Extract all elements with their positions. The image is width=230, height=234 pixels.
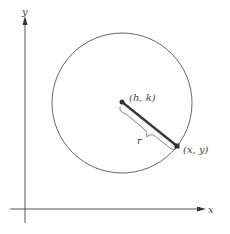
y-axis bbox=[23, 16, 28, 223]
radius-brace bbox=[120, 107, 176, 150]
center-point bbox=[120, 100, 125, 105]
x-axis bbox=[10, 207, 206, 212]
x-axis-arrow-icon bbox=[197, 207, 206, 212]
point-label: (x, y) bbox=[183, 144, 209, 155]
radius-label: r bbox=[137, 135, 143, 146]
circle-point bbox=[175, 144, 180, 149]
x-axis-label: x bbox=[208, 204, 214, 215]
y-axis-arrow-icon bbox=[23, 16, 28, 25]
radius-segment bbox=[122, 102, 177, 146]
y-axis-label: y bbox=[21, 6, 28, 17]
circle-diagram: y x (h, k) (x, y) r bbox=[0, 0, 230, 234]
center-label: (h, k) bbox=[129, 92, 156, 103]
